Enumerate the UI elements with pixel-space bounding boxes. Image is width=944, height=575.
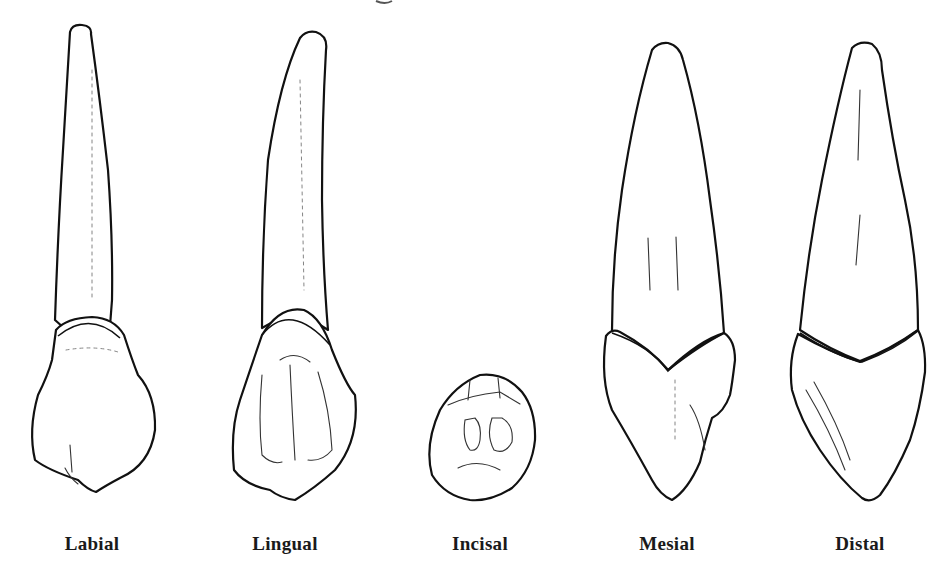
incisal-view-drawing bbox=[429, 375, 535, 501]
distal-view-drawing bbox=[791, 43, 925, 501]
distal-root bbox=[800, 43, 918, 361]
tooth-diagram: Labial Lingual Incisal Mesial Distal bbox=[0, 0, 944, 575]
mesial-view-drawing bbox=[604, 43, 735, 500]
labial-view-drawing bbox=[32, 25, 155, 492]
labial-crown bbox=[32, 317, 155, 492]
incisal-outline bbox=[429, 375, 535, 501]
lingual-root bbox=[262, 32, 328, 330]
label-mesial: Mesial bbox=[639, 533, 695, 555]
lingual-view-drawing bbox=[233, 32, 356, 500]
lingual-crown bbox=[233, 309, 356, 500]
label-lingual: Lingual bbox=[252, 533, 317, 555]
label-labial: Labial bbox=[65, 533, 120, 555]
cut-off-title-fragment bbox=[376, 1, 392, 3]
label-distal: Distal bbox=[835, 533, 884, 555]
labial-root bbox=[55, 25, 112, 328]
label-incisal: Incisal bbox=[452, 533, 508, 555]
mesial-root bbox=[612, 43, 724, 370]
